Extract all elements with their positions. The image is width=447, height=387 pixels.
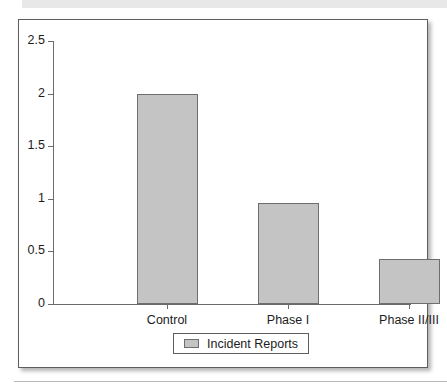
y-tick-mark [48, 251, 53, 252]
x-tick-mark-0 [167, 304, 168, 309]
y-tick-label: 1 [38, 191, 45, 205]
y-tick-mark [48, 146, 53, 147]
x-tick-mark-2 [409, 304, 410, 309]
x-tick-mark-1 [288, 304, 289, 309]
y-tick-label: 2 [38, 86, 45, 100]
bottom-horizontal-rule [14, 381, 447, 382]
y-tick-label: 0 [38, 296, 45, 310]
y-tick-mark [48, 94, 53, 95]
chart-legend[interactable]: Incident Reports [173, 333, 309, 354]
x-category-label-control: Control [147, 313, 187, 327]
y-tick-label: 2.5 [28, 33, 45, 47]
plot-area: 0 0.5 1 1.5 2 2.5 Control [53, 41, 395, 304]
legend-swatch-icon [184, 339, 199, 348]
y-tick-label: 1.5 [28, 138, 45, 152]
x-axis-line [53, 304, 411, 305]
x-category-label-phase-ii-iii: Phase II/III [379, 313, 439, 327]
x-category-label-phase-i: Phase I [267, 313, 309, 327]
y-tick-mark [48, 199, 53, 200]
bar-phase-ii-iii[interactable] [379, 259, 440, 304]
bar-phase-i[interactable] [258, 203, 319, 304]
y-tick-mark [48, 304, 53, 305]
chart-frame: 0 0.5 1 1.5 2 2.5 Control [18, 19, 428, 368]
y-tick-mark [48, 41, 53, 42]
top-decorative-band [22, 0, 447, 8]
y-axis-line [53, 41, 54, 304]
y-tick-label: 0.5 [28, 243, 45, 257]
bar-control[interactable] [137, 94, 198, 304]
legend-label: Incident Reports [207, 337, 298, 351]
